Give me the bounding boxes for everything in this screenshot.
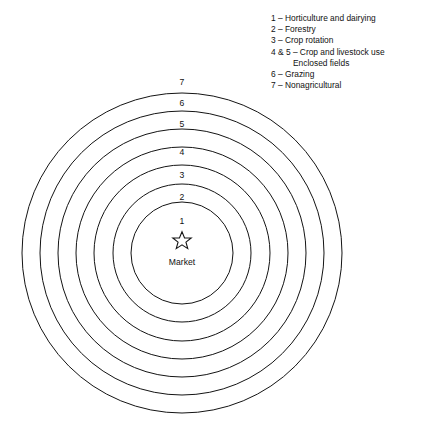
- ring-boundary-7: [22, 93, 342, 413]
- von-thunen-concentric-ring-diagram: 7 6 5 4 3 2 1 Market: [0, 0, 433, 446]
- ring-label-1: 1: [180, 216, 185, 226]
- ring-label-5: 5: [180, 119, 185, 129]
- ring-boundary-2: [113, 184, 251, 322]
- market-label: Market: [169, 257, 196, 267]
- ring-label-2: 2: [180, 192, 185, 202]
- ring-label-6: 6: [180, 98, 185, 108]
- ring-label-3: 3: [180, 170, 185, 180]
- ring-boundary-5: [58, 129, 306, 377]
- ring-label-4: 4: [180, 147, 185, 157]
- ring-label-7: 7: [180, 77, 185, 87]
- star-icon: [173, 232, 191, 249]
